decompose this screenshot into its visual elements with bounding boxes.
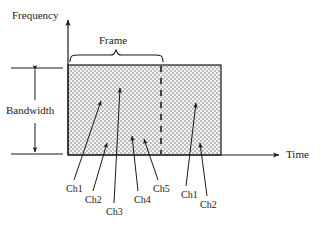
bandwidth-label: Bandwidth	[6, 105, 54, 116]
channel-label-ch1-right: Ch1	[181, 190, 198, 200]
channel-label-ch1-left: Ch1	[66, 184, 83, 194]
frame-label: Frame	[99, 35, 127, 46]
y-axis-label-frequency: Frequency	[12, 10, 58, 21]
channel-label-ch5-left: Ch5	[153, 184, 170, 194]
x-axis-label-time: Time	[286, 149, 309, 160]
channel-label-ch4-left: Ch4	[134, 195, 151, 205]
frame-brace	[70, 50, 163, 62]
channel-label-ch2-right: Ch2	[200, 200, 217, 210]
channel-label-ch3-left: Ch3	[106, 207, 123, 217]
channel-label-ch2-left: Ch2	[85, 195, 102, 205]
diagram-canvas: Frequency Time Bandwidth Frame Ch1 Ch2 C…	[0, 0, 323, 231]
